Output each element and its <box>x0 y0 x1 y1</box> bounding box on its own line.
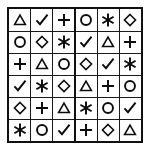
grid-cell-r4c4[interactable] <box>75 75 97 97</box>
check-icon <box>53 120 74 142</box>
grid-cell-r3c2[interactable] <box>31 53 53 75</box>
triangle-icon <box>31 54 52 75</box>
grid-cell-r2c3[interactable] <box>53 31 75 53</box>
symbol-grid <box>9 9 141 141</box>
symbol-grid-body <box>9 9 141 141</box>
plus-icon <box>98 76 119 97</box>
diamond-icon <box>9 98 30 119</box>
grid-cell-r2c1[interactable] <box>9 31 31 53</box>
grid-cell-r1c2[interactable] <box>31 9 53 31</box>
check-icon <box>9 76 30 97</box>
six-pointed-asterisk-icon <box>120 54 141 75</box>
circle-icon <box>53 54 74 75</box>
plus-icon <box>9 54 30 75</box>
grid-cell-r5c6[interactable] <box>119 97 141 119</box>
grid-cell-r2c5[interactable] <box>97 31 119 53</box>
triangle-icon <box>53 98 74 119</box>
plus-icon <box>120 32 141 53</box>
circle-icon <box>9 32 30 53</box>
grid-cell-r5c3[interactable] <box>53 97 75 119</box>
circle-icon <box>76 9 97 31</box>
six-pointed-asterisk-icon <box>31 76 52 97</box>
check-icon <box>98 54 119 75</box>
grid-cell-r2c4[interactable] <box>75 31 97 53</box>
grid-cell-r6c5[interactable] <box>97 119 119 141</box>
triangle-icon <box>76 76 97 97</box>
grid-cell-r5c5[interactable] <box>97 97 119 119</box>
triangle-icon <box>9 9 30 31</box>
diamond-icon <box>31 32 52 53</box>
circle-icon <box>120 76 141 97</box>
grid-cell-r6c1[interactable] <box>9 119 31 141</box>
grid-cell-r6c3[interactable] <box>53 119 75 141</box>
diamond-icon <box>53 76 74 97</box>
grid-row <box>9 31 141 53</box>
six-pointed-asterisk-icon <box>9 120 30 142</box>
grid-cell-r3c4[interactable] <box>75 53 97 75</box>
check-icon <box>76 32 97 53</box>
grid-cell-r2c2[interactable] <box>31 31 53 53</box>
check-icon <box>31 9 52 31</box>
grid-cell-r6c4[interactable] <box>75 119 97 141</box>
six-pointed-asterisk-icon <box>98 9 119 31</box>
grid-cell-r4c5[interactable] <box>97 75 119 97</box>
plus-icon <box>76 120 97 142</box>
grid-cell-r4c3[interactable] <box>53 75 75 97</box>
grid-cell-r3c6[interactable] <box>119 53 141 75</box>
grid-cell-r3c1[interactable] <box>9 53 31 75</box>
grid-cell-r5c2[interactable] <box>31 97 53 119</box>
grid-cell-r4c2[interactable] <box>31 75 53 97</box>
grid-cell-r1c1[interactable] <box>9 9 31 31</box>
six-pointed-asterisk-icon <box>53 32 74 53</box>
grid-cell-r1c5[interactable] <box>97 9 119 31</box>
plus-icon <box>53 9 74 31</box>
grid-row <box>9 75 141 97</box>
grid-cell-r5c1[interactable] <box>9 97 31 119</box>
grid-cell-r1c3[interactable] <box>53 9 75 31</box>
grid-cell-r5c4[interactable] <box>75 97 97 119</box>
triangle-icon <box>120 120 141 142</box>
circle-icon <box>98 98 119 119</box>
diamond-icon <box>98 120 119 142</box>
plus-icon <box>31 98 52 119</box>
circle-icon <box>31 120 52 142</box>
six-pointed-asterisk-icon <box>76 98 97 119</box>
grid-cell-r6c2[interactable] <box>31 119 53 141</box>
diamond-icon <box>120 9 141 31</box>
grid-cell-r1c4[interactable] <box>75 9 97 31</box>
triangle-icon <box>98 32 119 53</box>
grid-cell-r4c1[interactable] <box>9 75 31 97</box>
grid-row <box>9 9 141 31</box>
check-icon <box>120 98 141 119</box>
grid-row <box>9 97 141 119</box>
symbol-grid-figure <box>7 7 143 143</box>
grid-row <box>9 119 141 141</box>
grid-cell-r3c3[interactable] <box>53 53 75 75</box>
grid-row <box>9 53 141 75</box>
grid-cell-r3c5[interactable] <box>97 53 119 75</box>
grid-cell-r6c6[interactable] <box>119 119 141 141</box>
grid-cell-r2c6[interactable] <box>119 31 141 53</box>
grid-cell-r1c6[interactable] <box>119 9 141 31</box>
grid-cell-r4c6[interactable] <box>119 75 141 97</box>
diamond-icon <box>76 54 97 75</box>
